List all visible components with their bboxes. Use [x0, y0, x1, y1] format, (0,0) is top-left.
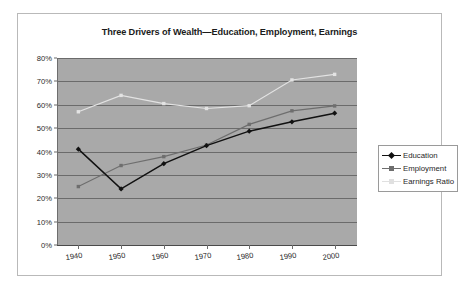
- x-axis-tick-label: 2000: [322, 251, 340, 262]
- y-axis-tick: [54, 221, 57, 222]
- chart-title: Three Drivers of Wealth—Education, Emplo…: [18, 27, 441, 37]
- employment-series-icon: [382, 163, 401, 174]
- x-axis-tick: [78, 245, 79, 249]
- series-layer: [57, 58, 356, 245]
- y-axis-tick-label: 80%: [37, 54, 52, 63]
- chart-frame: Three Drivers of Wealth—Education, Emplo…: [17, 13, 442, 276]
- x-axis-tick-label: 1990: [279, 251, 297, 262]
- y-axis-tick-label: 0%: [41, 241, 52, 250]
- x-axis-tick: [121, 245, 122, 249]
- y-axis-tick: [54, 151, 57, 152]
- x-axis-tick-label: 1940: [65, 251, 83, 262]
- y-axis-tick: [54, 128, 57, 129]
- x-axis-tick-label: 1960: [151, 251, 169, 262]
- legend-item-education[interactable]: Education: [382, 149, 457, 162]
- y-axis-tick-label: 40%: [37, 147, 52, 156]
- y-axis-tick-label: 10%: [37, 217, 52, 226]
- legend-label-earnings-ratio: Earnings Ratio: [403, 177, 454, 186]
- x-axis-tick: [292, 245, 293, 249]
- education-series-icon: [382, 150, 401, 161]
- y-axis-tick-label: 70%: [37, 77, 52, 86]
- y-axis-tick-label: 50%: [37, 124, 52, 133]
- series-education: [76, 111, 337, 192]
- x-axis-tick: [335, 245, 336, 249]
- x-axis-tick-label: 1950: [108, 251, 126, 262]
- y-axis-tick: [54, 58, 57, 59]
- y-axis-tick: [54, 104, 57, 105]
- chart-legend: Education Employment Earnings Ratio: [378, 145, 458, 192]
- y-axis-tick: [54, 174, 57, 175]
- y-axis-tick: [54, 81, 57, 82]
- y-axis-tick: [54, 198, 57, 199]
- legend-item-earnings-ratio[interactable]: Earnings Ratio: [382, 175, 457, 188]
- legend-label-employment: Employment: [403, 164, 446, 173]
- plot-wrapper: 0%10%20%30%40%50%60%70%80%19401950196019…: [57, 58, 356, 245]
- x-axis-tick: [164, 245, 165, 249]
- y-axis-tick-label: 20%: [37, 194, 52, 203]
- x-axis-tick-label: 1970: [194, 251, 212, 262]
- series-earnings-ratio: [77, 73, 337, 114]
- legend-item-employment[interactable]: Employment: [382, 162, 457, 175]
- y-axis-tick-label: 30%: [37, 170, 52, 179]
- y-axis-tick-label: 60%: [37, 100, 52, 109]
- x-axis-tick: [249, 245, 250, 249]
- x-axis-tick: [207, 245, 208, 249]
- y-axis-tick: [54, 245, 57, 246]
- earnings-ratio-series-icon: [382, 176, 401, 187]
- x-axis-tick-label: 1980: [236, 251, 254, 262]
- legend-label-education: Education: [403, 151, 438, 160]
